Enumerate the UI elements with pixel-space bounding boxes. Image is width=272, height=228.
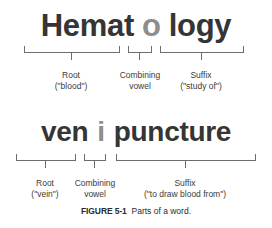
figure-caption: FIGURE 5-1 Parts of a word. bbox=[0, 206, 272, 217]
label-detail: vowel bbox=[54, 189, 136, 200]
label-suffix-venipuncture: Suffix ("to draw blood from") bbox=[127, 178, 243, 200]
bracket-root-venipuncture bbox=[16, 160, 76, 174]
bracket-tick-right bbox=[255, 154, 256, 161]
bracket-tick-right bbox=[151, 46, 152, 53]
label-detail: ("to draw blood from") bbox=[127, 189, 243, 200]
bracket-bar bbox=[84, 160, 106, 161]
bracket-bar bbox=[116, 160, 256, 161]
bracket-tick-right bbox=[119, 46, 120, 53]
bracket-tick-center bbox=[185, 160, 186, 168]
word-segment-combining-vowel: i bbox=[97, 116, 104, 148]
word-segment-combining-vowel: o bbox=[142, 8, 161, 44]
bracket-bar bbox=[24, 52, 120, 53]
bracket-tick-center bbox=[71, 52, 72, 60]
word-segment-suffix: puncture bbox=[114, 116, 231, 148]
bracket-tick-center bbox=[201, 52, 202, 60]
label-title: Suffix bbox=[161, 70, 241, 81]
bracket-tick-right bbox=[75, 154, 76, 161]
figure-caption-text: Parts of a word. bbox=[131, 206, 191, 216]
label-title: Suffix bbox=[127, 178, 243, 189]
label-title: Combining bbox=[54, 178, 136, 189]
bracket-tick-center bbox=[94, 160, 95, 168]
bracket-tick-right bbox=[243, 46, 244, 53]
bracket-combining-vowel-venipuncture bbox=[84, 160, 106, 174]
word-segment-suffix: logy bbox=[169, 8, 232, 44]
figure-parts-of-a-word: Hematology Root ("blood") Combining bbox=[0, 0, 272, 228]
bracket-tick-center bbox=[139, 52, 140, 60]
bracket-suffix-hematology bbox=[160, 52, 244, 66]
bracket-combining-vowel-hematology bbox=[128, 52, 152, 66]
bracket-tick-right bbox=[105, 154, 106, 161]
bracket-tick-left bbox=[160, 46, 161, 53]
bracket-bar bbox=[128, 52, 152, 53]
label-suffix-hematology: Suffix ("study of") bbox=[161, 70, 241, 92]
bracket-tick-left bbox=[16, 154, 17, 161]
bracket-root-hematology bbox=[24, 52, 120, 66]
word-venipuncture: venipuncture bbox=[0, 116, 272, 148]
figure-caption-label: FIGURE 5-1 bbox=[81, 206, 127, 216]
word-hematology: Hematology bbox=[0, 8, 272, 44]
bracket-tick-center bbox=[45, 160, 46, 168]
bracket-tick-left bbox=[128, 46, 129, 53]
bracket-tick-left bbox=[24, 46, 25, 53]
word-segment-root: ven bbox=[41, 116, 88, 148]
bracket-bar bbox=[16, 160, 76, 161]
bracket-group-venipuncture bbox=[0, 160, 272, 176]
word-segment-root: Hemat bbox=[41, 8, 134, 44]
label-detail: ("study of") bbox=[161, 81, 241, 92]
bracket-group-hematology bbox=[0, 52, 272, 68]
label-combining-vowel-venipuncture: Combining vowel bbox=[54, 178, 136, 200]
bracket-suffix-venipuncture bbox=[116, 160, 256, 174]
bracket-tick-left bbox=[84, 154, 85, 161]
bracket-bar bbox=[160, 52, 244, 53]
bracket-tick-left bbox=[116, 154, 117, 161]
